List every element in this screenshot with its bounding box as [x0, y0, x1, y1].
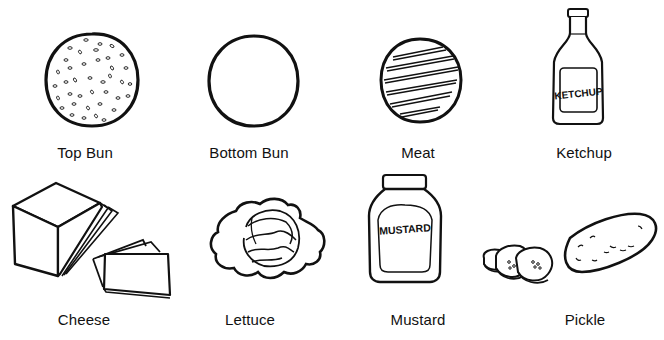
- ketchup-bottle-icon: KETCHUP: [553, 9, 603, 124]
- ingredients-illustration: KETCHUP MUSTARD: [0, 0, 664, 340]
- cheese-icon: [13, 183, 170, 298]
- label-top-bun: Top Bun: [57, 144, 113, 161]
- top-bun-icon: [46, 34, 138, 126]
- meat-patty-icon: [381, 39, 461, 122]
- label-pickle: Pickle: [565, 311, 606, 328]
- pickle-icon: [484, 214, 656, 283]
- bottom-bun-icon: [209, 36, 298, 126]
- label-meat: Meat: [401, 144, 435, 161]
- label-cheese: Cheese: [58, 311, 110, 328]
- label-bottom-bun: Bottom Bun: [209, 144, 288, 161]
- label-ketchup: Ketchup: [556, 144, 612, 161]
- mustard-jar-icon: MUSTARD: [369, 175, 441, 282]
- label-mustard: Mustard: [391, 311, 446, 328]
- lettuce-icon: [211, 199, 324, 278]
- label-lettuce: Lettuce: [225, 311, 275, 328]
